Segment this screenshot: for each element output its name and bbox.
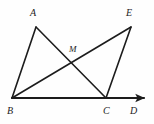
segment-AB — [12, 27, 36, 98]
vertex-label-c: C — [103, 106, 110, 116]
vertex-label-a: A — [30, 8, 36, 18]
vertex-label-m: M — [69, 44, 77, 54]
vertex-label-d: D — [130, 106, 137, 116]
segment-BE — [12, 27, 131, 98]
geometry-figure: A E M B C D — [0, 0, 154, 124]
segment-CE — [106, 27, 131, 98]
vertex-label-b: B — [7, 106, 13, 116]
vertex-label-e: E — [126, 8, 132, 18]
